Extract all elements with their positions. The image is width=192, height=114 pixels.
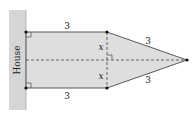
- bottom-length-label: 3: [64, 91, 70, 101]
- lower-slant-label: 3: [145, 75, 151, 85]
- upper-x-label: x: [98, 42, 103, 52]
- vertex-bottom-mid: [105, 86, 108, 89]
- upper-slant-label: 3: [145, 36, 151, 46]
- vertex-tip: [185, 58, 188, 61]
- top-length-label: 3: [64, 21, 70, 31]
- vertex-top-mid: [105, 30, 108, 33]
- garden-diagram: 3 3 3 3 x x House: [0, 0, 192, 114]
- lower-x-label: x: [98, 71, 103, 81]
- vertex-bottom-left: [24, 86, 27, 89]
- house-label: House: [12, 45, 22, 74]
- vertex-top-left: [24, 30, 27, 33]
